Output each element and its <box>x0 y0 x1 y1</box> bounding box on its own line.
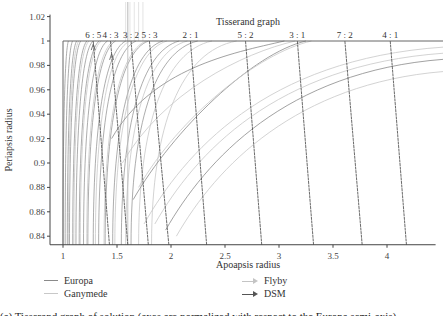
y-tick-label: 0.88 <box>29 182 45 192</box>
y-tick-label: 0.86 <box>29 207 45 217</box>
tisserand-chart: 6 : 54 : 33 : 25 : 32 : 15 : 23 : 17 : 2… <box>0 0 443 300</box>
y-tick-label: 1.02 <box>29 12 45 22</box>
resonance-line <box>345 41 362 245</box>
legend-left: Europa Ganymede <box>44 274 107 300</box>
resonance-line <box>131 41 148 245</box>
resonance-label: 5 : 3 <box>141 30 158 40</box>
resonance-line <box>297 41 313 245</box>
y-tick-label: 0.84 <box>29 231 45 241</box>
y-tick-label: 0.96 <box>29 85 45 95</box>
resonance-label: 4 : 3 <box>103 30 120 40</box>
resonance-label: 2 : 1 <box>182 30 198 40</box>
y-tick-label: 0.98 <box>29 60 45 70</box>
chart-title: Tisserand graph <box>216 16 280 27</box>
contour-line <box>131 41 198 245</box>
x-tick-label: 1.5 <box>111 251 123 261</box>
legend-dsm-label: DSM <box>264 287 286 300</box>
legend-item-ganymede: Ganymede <box>44 287 107 300</box>
resonance-line <box>390 41 406 245</box>
ganymede-line-swatch <box>44 293 58 294</box>
x-axis-title: Apoapsis radius <box>216 259 280 270</box>
y-tick-label: 0.92 <box>29 134 45 144</box>
resonance-label: 5 : 2 <box>238 30 254 40</box>
legend-right: Flyby DSM <box>242 274 287 300</box>
figure-caption: (a) Tisserand graph of solution (axes ar… <box>0 308 443 316</box>
contour-line <box>166 59 443 230</box>
legend-item-dsm: DSM <box>242 287 287 300</box>
contour-line <box>76 41 93 245</box>
y-tick-label: 1 <box>41 36 46 46</box>
x-tick-label: 4 <box>385 251 390 261</box>
legend-item-europa: Europa <box>44 274 107 287</box>
resonance-line <box>246 41 262 245</box>
dsm-arrow-icon <box>242 290 258 298</box>
resonance-label: 3 : 1 <box>289 30 305 40</box>
resonance-label: 7 : 2 <box>337 30 353 40</box>
contour-line <box>133 41 306 200</box>
contour-line <box>105 41 148 245</box>
resonance-label: 3 : 2 <box>123 30 139 40</box>
resonance-label: 6 : 5 <box>85 30 102 40</box>
x-tick-label: 1 <box>61 251 66 261</box>
y-tick-label: 0.94 <box>29 109 45 119</box>
contour-line <box>176 72 443 237</box>
y-tick-label: 0.9 <box>34 158 46 168</box>
y-axis-title: Periapsis radius <box>3 108 14 171</box>
flyby-arrow-icon <box>242 277 258 285</box>
dsm-arrow-icon <box>91 44 95 50</box>
contour-line <box>152 41 237 245</box>
x-tick-label: 2 <box>169 251 174 261</box>
legend-flyby-label: Flyby <box>264 274 287 287</box>
legend-europa-label: Europa <box>64 274 93 287</box>
contour-line <box>139 41 312 187</box>
resonance-line <box>190 41 206 245</box>
legend-ganymede-label: Ganymede <box>64 287 107 300</box>
resonance-label: 4 : 1 <box>382 30 398 40</box>
contour-line <box>126 41 188 245</box>
legend-item-flyby: Flyby <box>242 274 287 287</box>
europa-line-swatch <box>44 280 58 281</box>
x-tick-label: 3.5 <box>327 251 339 261</box>
contour-line <box>73 41 87 245</box>
